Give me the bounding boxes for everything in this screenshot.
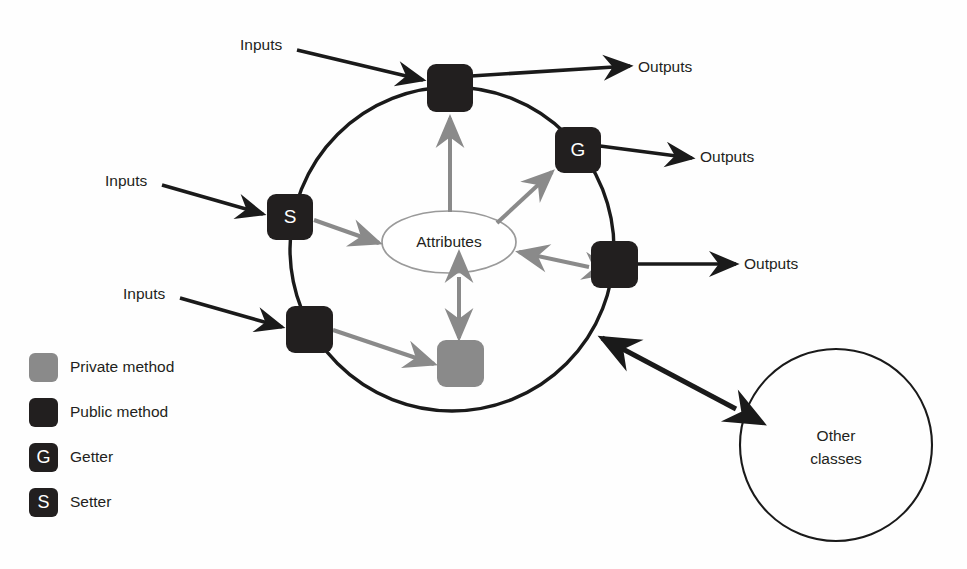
node-public-method-bottom-left[interactable]	[286, 306, 333, 353]
edge-public-bottom-left-to-private	[333, 330, 434, 364]
node-getter[interactable]: G	[555, 127, 601, 173]
other-classes-label-line1: Other	[817, 427, 856, 444]
edge-setter-to-attributes	[314, 220, 379, 243]
input-arrow-2	[162, 185, 263, 214]
legend-label-private-method: Private method	[70, 358, 174, 375]
attributes-label: Attributes	[416, 233, 482, 250]
node-setter[interactable]: S	[267, 194, 313, 240]
legend-item-private-method: Private method	[29, 353, 174, 382]
node-public-method-right[interactable]	[591, 241, 638, 288]
edge-public-right-to-attributes	[519, 252, 589, 267]
legend: Private method Public method G Getter S …	[29, 353, 174, 517]
input-label-3: Inputs	[123, 285, 165, 302]
input-label-1: Inputs	[240, 36, 282, 53]
class-encapsulation-diagram: Other classes Attributes	[0, 0, 967, 569]
input-label-2: Inputs	[105, 172, 147, 189]
legend-swatch-getter-glyph: G	[36, 447, 50, 467]
legend-item-setter: S Setter	[29, 488, 111, 517]
input-arrow-1	[297, 50, 423, 80]
output-label-3: Outputs	[744, 255, 799, 272]
diagram-canvas: Other classes Attributes	[0, 0, 967, 569]
edge-class-to-other-classes	[602, 338, 736, 409]
edge-attributes-to-getter	[497, 172, 552, 223]
legend-item-public-method: Public method	[29, 398, 168, 427]
output-arrow-2	[600, 146, 692, 158]
output-arrow-1	[471, 66, 630, 76]
node-private-method[interactable]	[437, 340, 484, 387]
legend-swatch-private-method	[29, 353, 58, 382]
output-label-1: Outputs	[638, 58, 693, 75]
legend-swatch-setter-glyph: S	[37, 492, 49, 512]
node-getter-glyph: G	[571, 139, 586, 160]
legend-label-getter: Getter	[70, 448, 113, 465]
legend-item-getter: G Getter	[29, 443, 113, 472]
legend-swatch-public-method	[29, 398, 58, 427]
input-arrow-3	[180, 298, 282, 327]
other-classes-circle	[740, 349, 932, 541]
legend-label-public-method: Public method	[70, 403, 168, 420]
other-classes-label-line2: classes	[810, 450, 862, 467]
node-public-method-top[interactable]	[427, 64, 473, 112]
output-label-2: Outputs	[700, 148, 755, 165]
legend-label-setter: Setter	[70, 493, 111, 510]
node-setter-glyph: S	[284, 206, 297, 227]
